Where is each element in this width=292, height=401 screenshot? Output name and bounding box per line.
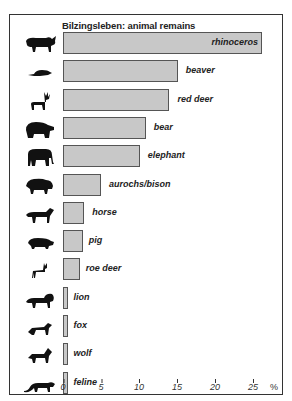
x-tick-label: 25	[248, 382, 258, 392]
bar-label: feline	[74, 377, 98, 387]
x-axis-unit: %	[270, 382, 278, 392]
bar-row: pig	[0, 230, 292, 254]
beaver-icon	[22, 61, 58, 83]
pig-icon	[22, 231, 58, 253]
bar	[63, 60, 178, 82]
bar	[63, 258, 80, 280]
bar	[63, 174, 101, 196]
bar-row: roe deer	[0, 258, 292, 282]
bar	[63, 117, 146, 139]
bison-icon	[22, 175, 58, 197]
x-tick-label: 5	[98, 382, 103, 392]
bar-label: aurochs/bison	[109, 179, 171, 189]
bar-row: lion	[0, 287, 292, 311]
bear-icon	[22, 118, 58, 140]
x-tick-label: 0	[60, 382, 65, 392]
bar	[63, 145, 140, 167]
bar-label: red deer	[177, 94, 213, 104]
bar-row: rhinoceros	[0, 32, 292, 56]
bar-row: fox	[0, 315, 292, 339]
bar-label: elephant	[148, 150, 185, 160]
bar	[63, 343, 68, 365]
bar-label: pig	[89, 235, 103, 245]
bar-row: elephant	[0, 145, 292, 169]
red-deer-icon	[22, 90, 58, 112]
bar-label: roe deer	[86, 263, 122, 273]
bar-row: horse	[0, 202, 292, 226]
bar-label: rhinoceros	[212, 37, 259, 47]
bar-row: aurochs/bison	[0, 174, 292, 198]
bar-label: beaver	[186, 65, 215, 75]
bar	[63, 287, 68, 309]
bar-label: wolf	[74, 348, 92, 358]
bar	[63, 315, 68, 337]
chart-title: Bilzingsleben: animal remains	[62, 20, 195, 31]
bar-label: lion	[74, 292, 90, 302]
wolf-icon	[22, 344, 58, 366]
bar-row: bear	[0, 117, 292, 141]
bar-row: wolf	[0, 343, 292, 367]
bar-label: horse	[92, 207, 117, 217]
bar-row: beaver	[0, 60, 292, 84]
bar	[63, 230, 83, 252]
bar	[63, 202, 84, 224]
x-tick-label: 10	[134, 382, 144, 392]
feline-icon	[22, 373, 58, 395]
x-tick-label: 15	[172, 382, 182, 392]
elephant-icon	[22, 146, 58, 168]
roe-deer-icon	[22, 259, 58, 281]
lion-icon	[22, 288, 58, 310]
bar	[63, 89, 169, 111]
x-tick-label: 20	[210, 382, 220, 392]
rhinoceros-icon	[22, 33, 58, 55]
horse-icon	[22, 203, 58, 225]
bar-row: red deer	[0, 89, 292, 113]
bar-label: bear	[154, 122, 173, 132]
bar-label: fox	[74, 320, 88, 330]
fox-icon	[22, 316, 58, 338]
